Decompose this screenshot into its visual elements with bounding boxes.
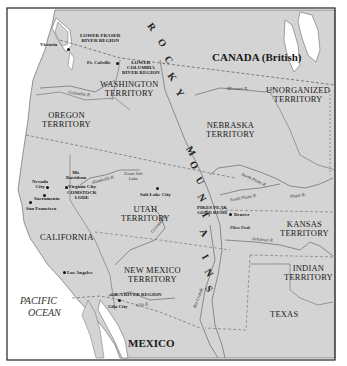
label-los-angeles: Los Angeles — [67, 270, 92, 275]
label-lower-columbia-region: LOWER COLUMBIA RIVER REGION — [122, 60, 160, 75]
city-dot — [156, 187, 159, 190]
label-california: CALIFORNIA — [40, 233, 93, 242]
label-san-francisco: San Francisco — [26, 206, 56, 211]
label-comstock-lode: COMSTOCK LODE — [67, 190, 97, 200]
label-denver: Denver — [234, 212, 250, 217]
label-pacific: PACIFIC — [20, 296, 57, 306]
label-ft-colville: Ft. Colville — [87, 60, 111, 65]
city-dot — [67, 48, 70, 51]
city-dot — [118, 299, 121, 302]
label-mt-davidson: Mt. Davidson — [66, 170, 86, 180]
city-dot — [63, 271, 66, 274]
label-great-salt-lake: Great Salt Lake — [124, 172, 142, 181]
label-gila-river-region: GILA RIVER REGION — [110, 292, 161, 297]
label-pikes-peak-gold-rush: PIKES PEAK GOLD RUSH — [197, 205, 227, 215]
label-canada: CANADA (British) — [212, 52, 302, 63]
label-gila-city: Gila City — [108, 304, 128, 309]
label-salt-lake-city: Salt Lake City — [140, 192, 171, 197]
label-texas: TEXAS — [270, 310, 298, 319]
label-sacramento: Sacramento — [34, 196, 60, 201]
label-nevada-city: Nevada City — [32, 179, 48, 189]
label-indian-territory: INDIAN TERRITORY — [284, 264, 333, 281]
city-dot — [229, 213, 232, 216]
label-new-mexico-territory: NEW MEXICO TERRITORY — [124, 266, 181, 283]
label-victoria: Victoria — [40, 42, 57, 47]
label-unorganized-territory: UNORGANIZED TERRITORY — [266, 86, 330, 103]
label-kansas-territory: KANSAS TERRITORY — [280, 220, 329, 237]
label-mexico: MEXICO — [128, 338, 174, 349]
label-pikes-peak: Pikes Peak — [230, 226, 250, 231]
label-ocean: OCEAN — [28, 308, 61, 318]
city-dot — [116, 62, 119, 65]
label-washington-territory: WASHINGTON TERRITORY — [100, 80, 159, 97]
city-dot — [29, 201, 32, 204]
label-missouri-river: Missouri R. — [227, 87, 248, 92]
label-lower-fraser-region: LOWER FRASER RIVER REGION — [80, 33, 120, 43]
label-oregon-territory: OREGON TERRITORY — [42, 111, 91, 128]
label-nebraska-territory: NEBRASKA TERRITORY — [206, 121, 255, 138]
